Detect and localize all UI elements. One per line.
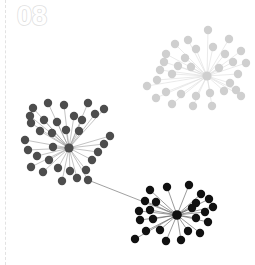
graph-node: [196, 229, 204, 237]
graph-edge: [207, 30, 208, 76]
graph-node: [141, 197, 149, 205]
graph-node: [106, 132, 114, 140]
graph-node: [221, 50, 229, 58]
graph-node: [100, 140, 108, 148]
graph-node: [187, 63, 195, 71]
graph-node: [168, 70, 176, 78]
graph-node: [201, 208, 209, 216]
graph-node: [24, 146, 32, 154]
graph-node: [208, 102, 216, 110]
graph-node: [48, 129, 56, 137]
graph-node: [143, 82, 151, 90]
graph-node: [162, 88, 170, 96]
graph-hub-node: [202, 71, 211, 80]
graph-node: [184, 227, 192, 235]
graph-node: [225, 35, 233, 43]
graph-node: [100, 105, 108, 113]
graph-node: [160, 58, 168, 66]
graph-node: [242, 59, 250, 67]
graph-node: [131, 235, 139, 243]
graph-node: [40, 116, 48, 124]
graph-node: [27, 119, 35, 127]
graph-node: [136, 216, 144, 224]
graph-node: [135, 207, 143, 215]
graph-node: [70, 112, 78, 120]
graph-node: [181, 54, 189, 62]
graph-node: [163, 183, 171, 191]
graph-node: [188, 204, 196, 212]
graph-node: [27, 163, 35, 171]
graph-node: [197, 190, 205, 198]
graph-node: [142, 227, 150, 235]
graph-nodes-layer: [21, 26, 250, 245]
graph-node: [152, 94, 160, 102]
graph-node: [21, 136, 29, 144]
graph-node: [177, 236, 185, 244]
slide-canvas: 08: [0, 0, 255, 265]
graph-node: [146, 186, 154, 194]
graph-node: [237, 92, 245, 100]
graph-node: [45, 156, 53, 164]
graph-node: [215, 64, 223, 72]
graph-node: [220, 87, 228, 95]
graph-node: [94, 148, 102, 156]
graph-node: [162, 237, 170, 245]
graph-node: [156, 226, 164, 234]
graph-node: [82, 166, 90, 174]
graph-node: [184, 36, 192, 44]
graph-hub-node: [172, 210, 182, 220]
graph-node: [185, 181, 193, 189]
graph-node: [91, 110, 99, 118]
graph-node: [204, 26, 212, 34]
graph-node: [168, 100, 176, 108]
graph-node: [84, 99, 92, 107]
graph-node: [62, 126, 70, 134]
graph-node: [204, 218, 212, 226]
graph-node: [189, 102, 197, 110]
graph-node: [229, 58, 237, 66]
graph-edge: [69, 144, 104, 148]
graph-edge: [62, 148, 69, 181]
graph-node: [152, 198, 160, 206]
graph-node: [58, 177, 66, 185]
graph-node: [78, 116, 86, 124]
graph-node: [73, 174, 81, 182]
graph-node: [174, 62, 182, 70]
graph-node: [149, 215, 157, 223]
graph-node: [226, 79, 234, 87]
graph-node: [171, 40, 179, 48]
graph-node: [66, 167, 74, 175]
graph-node: [177, 90, 185, 98]
graph-node: [234, 70, 242, 78]
network-graph: [0, 0, 255, 265]
graph-node: [54, 164, 62, 172]
graph-edge: [172, 76, 207, 104]
graph-node: [60, 101, 68, 109]
graph-node: [209, 203, 217, 211]
graph-node: [237, 47, 245, 55]
graph-node: [153, 76, 161, 84]
graph-node: [146, 206, 154, 214]
graph-node: [29, 104, 37, 112]
graph-node: [162, 50, 170, 58]
graph-node: [209, 43, 217, 51]
graph-node: [44, 99, 52, 107]
graph-node: [53, 118, 61, 126]
graph-node: [36, 127, 44, 135]
graph-node: [192, 45, 200, 53]
graph-node: [88, 156, 96, 164]
graph-node: [33, 152, 41, 160]
graph-node: [84, 176, 92, 184]
graph-hub-node: [64, 143, 73, 152]
graph-edge: [160, 70, 207, 76]
graph-node: [192, 214, 200, 222]
graph-node: [206, 89, 214, 97]
graph-node: [192, 92, 200, 100]
graph-node: [49, 143, 57, 151]
graph-node: [205, 195, 213, 203]
graph-node: [39, 168, 47, 176]
graph-node: [156, 66, 164, 74]
graph-node: [75, 127, 83, 135]
